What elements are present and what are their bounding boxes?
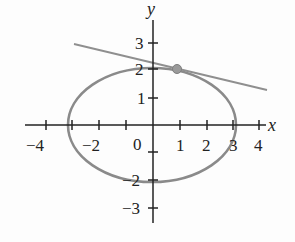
- x-tick-label: −2: [82, 136, 100, 155]
- y-tick-label: −2: [122, 171, 140, 190]
- y-tick-label: 3: [135, 34, 144, 53]
- x-tick-label: 2: [202, 136, 211, 155]
- x-tick-label: 4: [254, 136, 263, 155]
- tangent-line: [74, 44, 267, 90]
- x-tick-label: 0: [133, 135, 142, 154]
- x-tick-label: 1: [176, 136, 185, 155]
- ellipse-tangent-figure: x y −4 −2 0 1 2 3 4 3 2 1 −2 −3: [0, 0, 295, 242]
- x-tick-label: 3: [229, 136, 238, 155]
- y-axis-label: y: [145, 0, 155, 19]
- y-tick-label: 2: [135, 60, 144, 79]
- plot-canvas: x y −4 −2 0 1 2 3 4 3 2 1 −2 −3: [0, 0, 295, 242]
- tangent-point: [173, 65, 182, 74]
- x-axis-label: x: [267, 115, 276, 135]
- y-tick-label: −3: [122, 199, 140, 218]
- y-tick-label: 1: [137, 89, 146, 108]
- x-tick-label: −4: [26, 136, 45, 155]
